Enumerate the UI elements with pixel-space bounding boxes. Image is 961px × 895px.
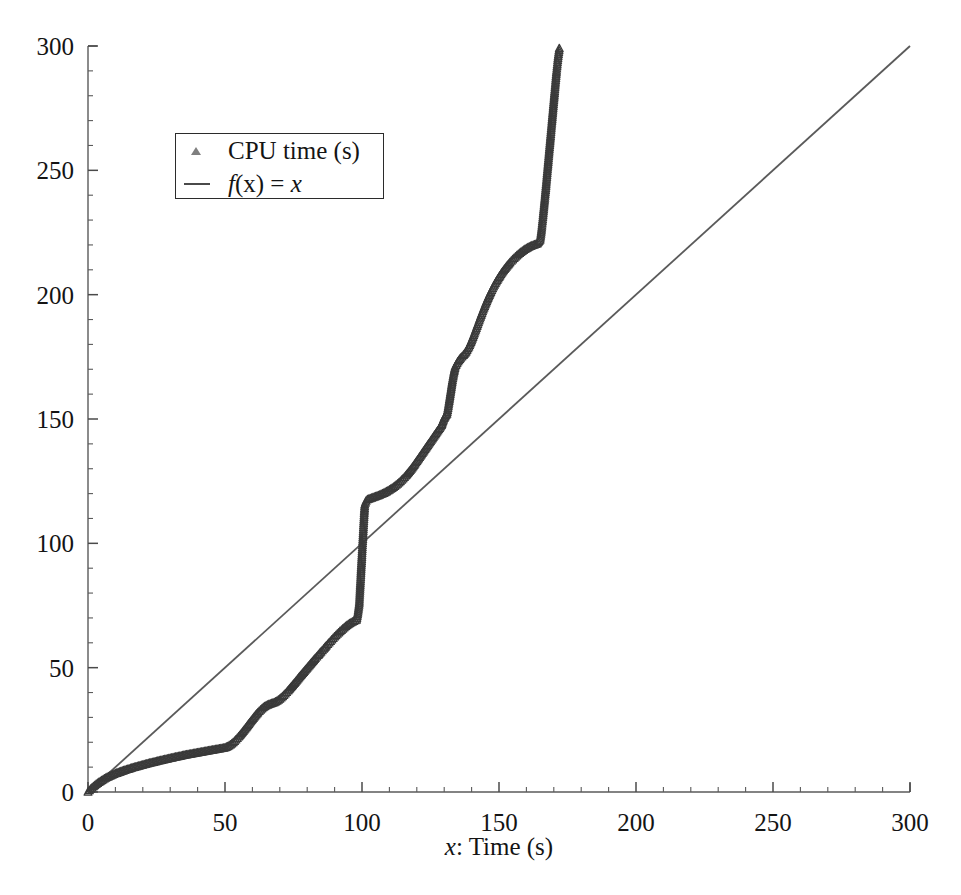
chart-figure: 050100150200250300 050100150200250300 x:… bbox=[0, 0, 961, 895]
y-tick-label: 50 bbox=[0, 655, 74, 680]
y-tick-label: 300 bbox=[0, 34, 74, 59]
x-axis-title-var: x bbox=[445, 833, 456, 860]
line-swatch-icon bbox=[176, 167, 228, 200]
x-tick-label: 200 bbox=[617, 810, 655, 835]
y-tick-label: 250 bbox=[0, 158, 74, 183]
x-tick-label: 250 bbox=[754, 810, 792, 835]
x-axis-title: x: Time (s) bbox=[445, 833, 553, 861]
triangle-marker-icon bbox=[176, 134, 228, 167]
y-tick-label: 150 bbox=[0, 407, 74, 432]
plot-canvas bbox=[0, 0, 961, 895]
y-tick-label: 200 bbox=[0, 282, 74, 307]
x-tick-label: 0 bbox=[82, 810, 95, 835]
x-tick-label: 300 bbox=[891, 810, 929, 835]
x-axis-title-rest: : Time (s) bbox=[456, 833, 553, 860]
x-tick-label: 150 bbox=[480, 810, 518, 835]
y-tick-label: 100 bbox=[0, 531, 74, 556]
legend-label-identity-line: f(x) = x bbox=[228, 170, 302, 198]
chart-legend: CPU time (s) f(x) = x bbox=[175, 133, 384, 199]
x-tick-label: 50 bbox=[213, 810, 238, 835]
legend-item-cpu-time: CPU time (s) bbox=[176, 134, 383, 167]
y-tick-label: 0 bbox=[0, 780, 74, 805]
legend-item-identity-line: f(x) = x bbox=[176, 167, 383, 200]
legend-label-cpu-time: CPU time (s) bbox=[228, 137, 360, 165]
x-tick-label: 100 bbox=[343, 810, 381, 835]
